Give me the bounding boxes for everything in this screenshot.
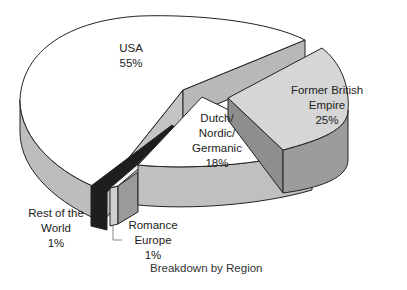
leader-line-romance	[113, 226, 122, 240]
label-dutch-name-1: Dutch/	[192, 111, 242, 126]
label-usa-name: USA	[119, 41, 143, 56]
label-usa-value: 55%	[119, 56, 143, 71]
label-british-name-1: Former British	[291, 83, 363, 98]
slice-romance-europe-side	[110, 186, 118, 226]
label-dutch-nordic-germanic: Dutch/ Nordic/ Germanic 18%	[192, 111, 242, 171]
label-romance-europe: Romance Europe 1%	[128, 218, 177, 263]
label-romance-value: 1%	[128, 248, 177, 263]
label-usa: USA 55%	[119, 41, 143, 71]
label-romance-name-1: Romance	[128, 218, 177, 233]
label-rest-value: 1%	[28, 236, 84, 251]
label-rest-name-1: Rest of the	[28, 206, 84, 221]
label-romance-name-2: Europe	[128, 233, 177, 248]
label-dutch-name-3: Germanic	[192, 141, 242, 156]
label-british-empire: Former British Empire 25%	[291, 83, 363, 128]
label-dutch-value: 18%	[192, 156, 242, 171]
label-dutch-name-2: Nordic/	[192, 126, 242, 141]
label-rest-name-2: World	[28, 221, 84, 236]
label-british-name-2: Empire	[291, 98, 363, 113]
label-british-value: 25%	[291, 113, 363, 128]
label-rest-of-world: Rest of the World 1%	[28, 206, 84, 251]
chart-caption: Breakdown by Region	[150, 262, 263, 274]
